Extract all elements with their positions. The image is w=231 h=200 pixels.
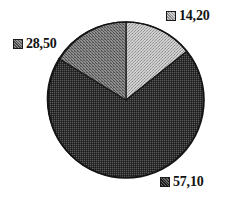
pie-label-5710-text: 57,10: [173, 175, 204, 189]
pie-label-2850-text: 28,50: [26, 37, 57, 51]
pie-label-1420-text: 14,20: [179, 9, 210, 23]
legend-swatch-5710-icon: [160, 177, 170, 187]
pie-label-2850: 28,50: [13, 37, 57, 51]
pie-chart-graphic: [0, 0, 231, 200]
legend-swatch-1420-icon: [166, 11, 176, 21]
pie-label-1420: 14,20: [166, 9, 210, 23]
pie-label-5710: 57,10: [160, 175, 204, 189]
pie-svg: [0, 0, 231, 200]
pie-chart-figure: 14,20 28,50 57,10: [0, 0, 231, 200]
legend-swatch-2850-icon: [13, 39, 23, 49]
